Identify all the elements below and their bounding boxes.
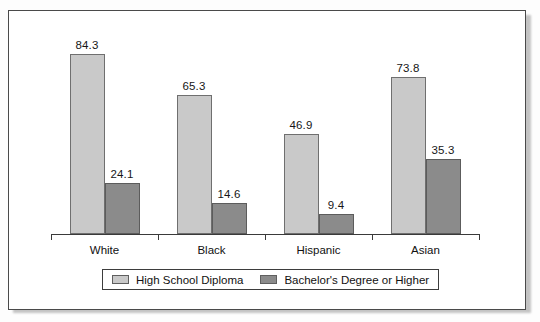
bar-value-label-white-series-2: 24.1	[95, 168, 150, 180]
bar-black-series-2	[212, 203, 247, 234]
bar-white-series-1	[70, 54, 105, 234]
bar-value-label-asian-series-1: 73.8	[381, 62, 436, 74]
bar-value-label-black-series-2: 14.6	[202, 188, 257, 200]
bar-hispanic-series-2	[319, 214, 354, 234]
x-axis-tick	[158, 234, 159, 240]
legend-item-bachelors-degree-or-higher: Bachelor's Degree or Higher	[260, 274, 429, 286]
legend-swatch-bachelors-degree-or-higher	[260, 275, 277, 284]
category-label-black: Black	[167, 244, 257, 256]
x-axis-tick	[51, 234, 52, 240]
x-axis-tick	[372, 234, 373, 240]
legend-item-high-school-diploma: High School Diploma	[112, 274, 243, 286]
screenshot-page: 84.324.1White65.314.6Black46.99.4Hispani…	[0, 0, 540, 322]
x-axis-tick	[265, 234, 266, 240]
bar-value-label-asian-series-2: 35.3	[416, 144, 471, 156]
plot-area: 84.324.1White65.314.6Black46.99.4Hispani…	[9, 11, 525, 309]
bar-value-label-hispanic-series-1: 46.9	[274, 119, 329, 131]
category-label-hispanic: Hispanic	[274, 244, 364, 256]
bar-hispanic-series-1	[284, 134, 319, 234]
legend-swatch-high-school-diploma	[112, 275, 129, 284]
bar-value-label-hispanic-series-2: 9.4	[309, 199, 364, 211]
category-label-white: White	[60, 244, 150, 256]
bar-black-series-1	[177, 95, 212, 234]
chart-figure-frame: 84.324.1White65.314.6Black46.99.4Hispani…	[8, 10, 526, 310]
category-label-asian: Asian	[381, 244, 471, 256]
legend-label-high-school-diploma: High School Diploma	[136, 274, 243, 286]
bar-white-series-2	[105, 183, 140, 234]
chart-legend: High School Diploma Bachelor's Degree or…	[102, 269, 439, 290]
legend-label-bachelors-degree-or-higher: Bachelor's Degree or Higher	[284, 274, 429, 286]
bar-value-label-black-series-1: 65.3	[167, 80, 222, 92]
bar-asian-series-2	[426, 159, 461, 234]
x-axis-tick	[479, 234, 480, 240]
bar-value-label-white-series-1: 84.3	[60, 39, 115, 51]
